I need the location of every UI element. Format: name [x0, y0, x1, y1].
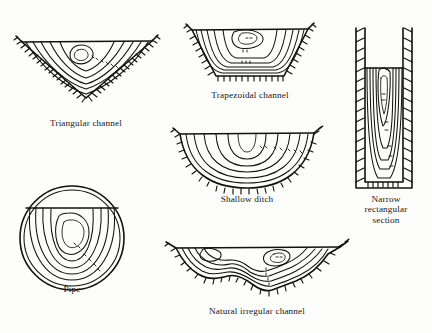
isovel-contour-1.5: [195, 248, 315, 276]
isovel-contour-0.5: [182, 248, 328, 286]
caption-trapezoidal-channel: Trapezoidal channel: [180, 90, 320, 100]
isovel-core-left: [200, 248, 221, 261]
caption-narrow-rectangular-section: Narrow rectangular section: [340, 194, 432, 225]
panel-shallow-ditch: Shallow ditch: [168, 122, 326, 192]
contour-label-marks: [260, 146, 302, 153]
velocity-distribution-figure: Triangular channel: [0, 0, 432, 333]
isovel-core-inner: [62, 220, 84, 248]
isovel-contour-0.5: [29, 208, 114, 280]
isovel-contour-1.0: [201, 30, 299, 70]
narrow-rectangular-drawing: [346, 26, 426, 192]
isovel-contour-1.5: [43, 208, 101, 268]
isovel-contour-0.5: [26, 42, 148, 94]
isovel-core-inner: [74, 49, 88, 60]
isovel-contour-2.0: [50, 42, 124, 78]
contour-label-marks: [242, 38, 252, 63]
shallow-ditch-drawing: [168, 122, 326, 192]
isovel-core-inner: [238, 33, 257, 44]
pipe-inner-wall: [24, 190, 120, 286]
isovel-core-outer: [378, 68, 390, 126]
channel-bank-outline: [173, 127, 321, 188]
panel-trapezoidal-channel: Trapezoidal channel: [180, 16, 320, 88]
ground-hatching-left: [184, 25, 213, 75]
panel-triangular-channel: Triangular channel: [6, 26, 166, 114]
water-surface-line: [176, 247, 340, 248]
caption-shallow-ditch: Shallow ditch: [168, 194, 326, 204]
panel-natural-irregular-channel: Natural irregular channel: [162, 234, 352, 306]
isovel-contour-2.0: [51, 209, 94, 261]
wall-hatching-left: [356, 28, 364, 182]
panel-pipe: Pipe: [12, 180, 132, 302]
wall-hatching-bottom: [368, 182, 398, 187]
trapezoidal-channel-drawing: [180, 16, 320, 88]
wall-hatching-right: [404, 28, 412, 182]
caption-pipe: Pipe: [12, 284, 132, 294]
ground-hatching-right: [88, 36, 160, 101]
caption-natural-irregular-channel: Natural irregular channel: [162, 306, 352, 316]
isovel-core-inner: [238, 134, 256, 152]
triangular-channel-drawing: [6, 26, 166, 114]
ground-hatching-right: [287, 24, 316, 74]
water-surface-line: [180, 133, 314, 134]
caption-triangular-channel: Triangular channel: [6, 118, 166, 128]
isovel-contour-1.0: [194, 134, 300, 178]
isovel-core-outer: [70, 45, 93, 64]
panel-narrow-rectangular-section: Narrow rectangular section: [346, 26, 426, 192]
isovel-core-right-inner: [270, 253, 285, 263]
isovel-contour-2.0: [216, 134, 278, 166]
natural-irregular-drawing: [162, 234, 352, 306]
isovel-core-inner: [381, 76, 388, 114]
